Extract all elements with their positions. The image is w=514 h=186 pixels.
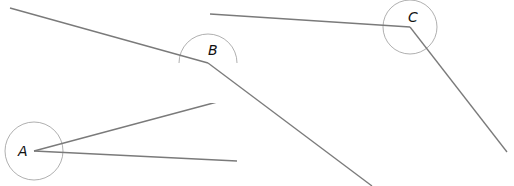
angle-c-label: C [408,9,418,25]
angle-c-left-ray [210,14,410,27]
angle-b-label: B [208,42,218,58]
angle-b-mask [150,63,270,103]
angle-c-right-ray [410,27,507,152]
angle-a-upper-ray [34,98,232,151]
angle-b-left-ray [10,8,208,63]
angle-a: A [5,98,237,180]
diagram-svg: A B C [0,0,514,186]
angle-diagram: A B C [0,0,514,186]
angle-a-label: A [17,143,28,159]
angle-a-lower-ray [34,151,237,161]
angle-b-right-ray [208,63,372,186]
